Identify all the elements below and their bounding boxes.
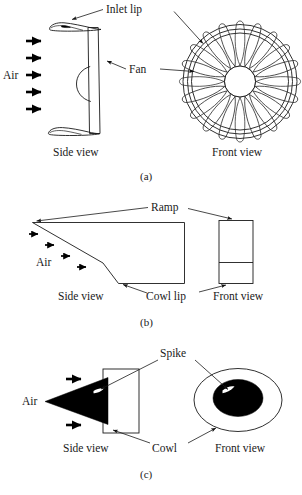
front-view-label-a: Front view [212,146,263,158]
spike-label: Spike [160,347,186,360]
panel-b: Air Side view Front view Ramp Cowl lip (… [29,201,264,329]
panel-c: Air Side view Front view Spike Cowl (c) [22,347,282,481]
panel-caption-a: (a) [140,170,153,183]
inlet-lip-lower-airfoil [48,128,99,136]
callout-fan: Fan [107,61,194,75]
panel-caption-c: (c) [140,468,153,481]
inlet-lip-upper-airfoil [49,23,101,31]
airflow-label-c: Air [22,395,38,407]
cowl-lip-label: Cowl lip [146,290,186,303]
callout-spike: Spike [101,347,228,390]
inlet-lip-label: Inlet lip [106,3,142,16]
panel-c-side-view: Air Side view [22,369,139,454]
callout-cowl-lip: Cowl lip [123,285,226,304]
airflow-arrows-a [26,41,41,109]
callout-inlet-lip: Inlet lip [72,3,203,44]
airflow-label-b: Air [36,256,52,268]
panel-caption-b: (b) [140,316,153,329]
inlet-configurations-figure: Air Side view [0,0,302,495]
fan-duct-body [88,28,100,134]
panel-a-front-view: Front view [179,21,300,158]
fan-label: Fan [129,63,147,75]
front-view-label-b: Front view [213,290,264,302]
panel-a-side-view: Air Side view [3,23,101,158]
panel-c-front-view: Front view [194,369,282,455]
side-view-label-a: Side view [53,146,99,158]
callout-ramp: Ramp [37,201,233,221]
side-view-label-c: Side view [63,442,109,454]
callout-cowl: Cowl [113,428,216,454]
panel-b-front-view: Front view [213,221,264,303]
side-view-label-b: Side view [58,290,104,302]
ramp-label: Ramp [151,201,179,214]
cowl-label: Cowl [152,442,177,454]
airflow-label-a: Air [3,69,19,81]
front-view-label-c: Front view [215,442,266,454]
panel-a: Air Side view [3,3,301,183]
